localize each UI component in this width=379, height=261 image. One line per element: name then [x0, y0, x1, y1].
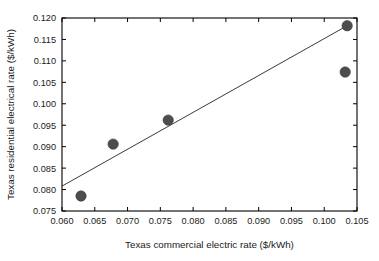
- y-tick-label: 0.105: [33, 78, 56, 88]
- y-tick-label: 0.080: [33, 185, 56, 195]
- y-tick-label: 0.095: [33, 121, 56, 131]
- y-axis-title: Texas residential electrical rate ($/kWh…: [5, 29, 16, 200]
- x-tick-label: 0.065: [83, 216, 106, 226]
- x-tick-label: 0.080: [182, 216, 205, 226]
- y-tick-label: 0.085: [33, 164, 56, 174]
- y-tick-label: 0.100: [33, 99, 56, 109]
- x-tick-label: 0.075: [149, 216, 172, 226]
- y-tick-label: 0.110: [34, 56, 56, 66]
- data-point: [108, 139, 118, 149]
- y-tick-label: 0.120: [33, 13, 56, 23]
- x-tick-label: 0.095: [280, 216, 303, 226]
- x-tick-label: 0.060: [51, 216, 74, 226]
- x-axis-title: Texas commercial electric rate ($/kWh): [125, 239, 294, 250]
- x-tick-label: 0.100: [313, 216, 336, 226]
- scatter-chart-figure: 0.0600.0650.0700.0750.0800.0850.0900.095…: [0, 0, 379, 261]
- data-point: [76, 191, 86, 201]
- data-point: [163, 115, 173, 125]
- x-tick-label: 0.090: [247, 216, 270, 226]
- data-point: [340, 67, 350, 77]
- y-tick-label: 0.115: [34, 35, 56, 45]
- chart-canvas: 0.0600.0650.0700.0750.0800.0850.0900.095…: [0, 0, 379, 261]
- data-point: [342, 21, 352, 31]
- x-tick-label: 0.070: [116, 216, 139, 226]
- x-tick-label: 0.105: [346, 216, 369, 226]
- y-tick-label: 0.090: [33, 142, 56, 152]
- y-tick-label: 0.075: [33, 206, 56, 216]
- x-tick-label: 0.085: [214, 216, 237, 226]
